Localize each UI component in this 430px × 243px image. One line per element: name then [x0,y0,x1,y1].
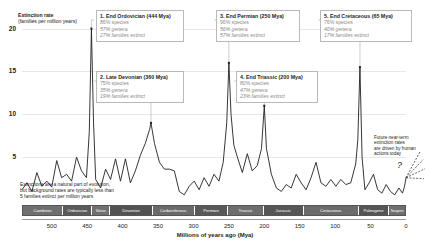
x-tick-label: 0 [394,223,418,229]
period-triassic[interactable]: Triassic [228,206,264,215]
x-tick-label: 250 [217,223,241,229]
background-rate-note: Extinctions are a natural part of evolut… [20,182,114,200]
future-projection-line [406,169,425,178]
period-jurassic[interactable]: Jurassic [264,206,303,215]
peak-marker [150,122,152,124]
peak-marker [359,66,361,68]
period-permian[interactable]: Permian [195,206,228,215]
period-neogene[interactable]: Neogene [389,206,405,215]
x-tick-label: 100 [323,223,347,229]
future-projection-line [406,178,424,179]
period-ordovician[interactable]: Ordovician [63,206,92,215]
period-cambrian[interactable]: Cambrian [23,206,63,215]
annotation-box-2[interactable]: 2. Late Devonian (360 Mya)75% species35%… [96,71,184,103]
period-paleogene[interactable]: Paleogene [359,206,390,215]
peak-marker [228,62,230,64]
x-tick-label: 150 [288,223,312,229]
period-carboniferous[interactable]: Carboniferous [153,206,195,215]
x-tick-label: 50 [359,223,383,229]
x-tick-label: 350 [146,223,170,229]
annotation-line: 27% families extinct [100,32,180,38]
period-cretaceous[interactable]: Cretaceous [304,206,359,215]
annotation-box-4[interactable]: 4. End Triassic (200 Mya)80% species47% … [236,71,318,103]
x-tick-label: 300 [182,223,206,229]
period-silurian[interactable]: Silurian [92,206,110,215]
annotation-line: 19% families extinct [100,93,180,99]
annotation-box-1[interactable]: 1. End Ordovician (444 Mya)86% species57… [96,10,184,42]
annotation-leader-line [91,20,94,29]
x-tick-label: 450 [75,223,99,229]
future-trend-note: Future near-term extinction rates are dr… [374,135,416,157]
question-mark-icon: ? [397,160,402,170]
x-tick-label: 200 [252,223,276,229]
x-axis-title: Millions of years ago (Mya) [0,232,430,238]
chart-canvas: Extinction rate (families per million ye… [0,0,430,243]
geologic-period-bar: CambrianOrdovicianSilurianDevonianCarbon… [22,205,406,216]
peak-marker [263,105,265,107]
x-axis-line [22,219,406,220]
x-tick-label: 500 [40,223,64,229]
annotation-box-3[interactable]: 3. End Permian (250 Mya)96% species56% g… [216,10,300,42]
x-tick-label: 400 [111,223,135,229]
annotation-box-5[interactable]: 5. End Cretaceous (65 Mya)76% species40%… [320,10,412,42]
annotation-line: 17% families extinct [324,32,408,38]
annotation-line: 23% families extinct [240,93,314,99]
period-devonian[interactable]: Devonian [110,206,152,215]
peak-marker [90,28,92,30]
annotation-line: 57% families extinct [220,32,296,38]
data-line [22,29,406,195]
